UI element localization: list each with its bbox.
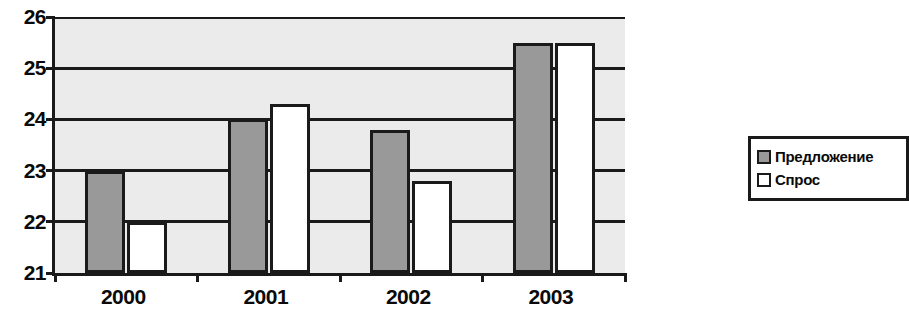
y-axis-tick: [46, 67, 55, 70]
bar-demand-2003: [555, 43, 595, 273]
legend-item[interactable]: Предложение: [757, 145, 902, 168]
bar-demand-2002: [412, 181, 452, 273]
x-axis-tick-label: 2001: [195, 286, 338, 307]
y-axis-tick-label: 23: [2, 160, 46, 181]
bar-supply-2001: [228, 119, 268, 273]
legend-item[interactable]: Спрос: [757, 168, 902, 191]
x-axis-tick-label: 2002: [337, 286, 480, 307]
x-axis: 2000200120022003: [52, 286, 622, 316]
x-axis-tick-label: 2000: [52, 286, 195, 307]
legend-item-label: Спрос: [775, 172, 820, 187]
x-axis-tick: [196, 273, 199, 282]
bar-supply-2000: [85, 171, 125, 273]
y-axis-tick-label: 22: [2, 211, 46, 232]
y-axis-tick-label: 26: [2, 6, 46, 27]
legend-item-label: Предложение: [775, 149, 873, 164]
y-axis-tick-label: 25: [2, 57, 46, 78]
y-axis: 212223242526: [0, 0, 46, 323]
bar-supply-2002: [370, 130, 410, 273]
y-axis-tick: [46, 169, 55, 172]
y-axis-tick-label: 24: [2, 108, 46, 129]
x-axis-tick-label: 2003: [480, 286, 623, 307]
y-axis-tick-label: 21: [2, 262, 46, 283]
x-axis-tick: [54, 273, 57, 282]
gridline: [55, 17, 625, 19]
bar-demand-2001: [270, 104, 310, 273]
chart-legend: Предложение Спрос: [748, 136, 909, 201]
x-axis-tick: [339, 273, 342, 282]
x-axis-tick: [624, 273, 627, 282]
bar-demand-2000: [127, 222, 167, 273]
bar-supply-2003: [513, 43, 553, 273]
y-axis-tick: [46, 220, 55, 223]
y-axis-tick: [46, 118, 55, 121]
demand-swatch-icon: [757, 173, 771, 187]
y-axis-tick: [46, 16, 55, 19]
x-axis-tick: [481, 273, 484, 282]
plot-inner: [55, 17, 625, 273]
bar-chart: 212223242526 2000200120022003 Предложени…: [0, 0, 909, 323]
plot-area: [52, 17, 625, 276]
supply-swatch-icon: [757, 150, 771, 164]
